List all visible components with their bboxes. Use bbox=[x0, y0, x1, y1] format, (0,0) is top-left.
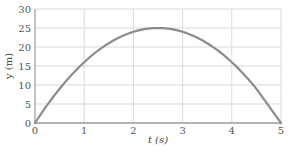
data-series-curve bbox=[35, 28, 281, 123]
x-tick-label: 1 bbox=[81, 125, 87, 136]
x-tick-label: 4 bbox=[229, 125, 235, 136]
y-tick-label: 20 bbox=[18, 42, 31, 53]
x-tick-label: 0 bbox=[32, 125, 38, 136]
y-tick-label: 0 bbox=[25, 118, 31, 129]
x-axis-label: t (s) bbox=[148, 134, 168, 145]
chart: 012345 051015202530 t (s) y (m) bbox=[0, 0, 292, 154]
y-tick-label: 30 bbox=[18, 4, 31, 15]
x-tick-label: 5 bbox=[278, 125, 284, 136]
y-tick-label: 5 bbox=[25, 99, 31, 110]
y-tick-label: 10 bbox=[18, 80, 31, 91]
y-tick-label: 25 bbox=[18, 23, 31, 34]
x-tick-label: 2 bbox=[130, 125, 136, 136]
y-tick-label: 15 bbox=[18, 61, 31, 72]
y-axis-label: y (m) bbox=[3, 53, 14, 80]
x-tick-label: 3 bbox=[179, 125, 185, 136]
y-tick-labels: 051015202530 bbox=[18, 4, 31, 129]
grid-lines bbox=[35, 9, 281, 123]
